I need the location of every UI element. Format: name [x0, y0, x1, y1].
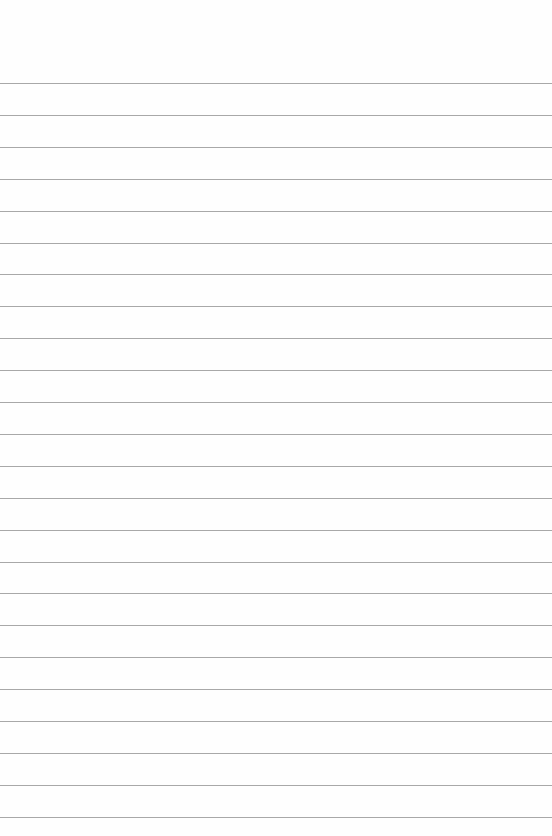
ruled-line [0, 211, 552, 212]
ruled-line [0, 179, 552, 180]
ruled-line [0, 657, 552, 658]
ruled-line [0, 402, 552, 403]
ruled-line [0, 625, 552, 626]
ruled-line [0, 434, 552, 435]
ruled-line [0, 370, 552, 371]
ruled-line [0, 530, 552, 531]
ruled-line [0, 115, 552, 116]
ruled-line [0, 274, 552, 275]
ruled-line [0, 785, 552, 786]
ruled-line [0, 562, 552, 563]
ruled-line [0, 498, 552, 499]
lined-paper-page [0, 0, 552, 836]
ruled-line [0, 147, 552, 148]
ruled-line [0, 83, 552, 84]
ruled-line [0, 753, 552, 754]
ruled-line [0, 243, 552, 244]
ruled-line [0, 306, 552, 307]
ruled-line [0, 817, 552, 818]
ruled-line [0, 593, 552, 594]
ruled-line [0, 721, 552, 722]
ruled-line [0, 338, 552, 339]
ruled-line [0, 689, 552, 690]
ruled-line [0, 466, 552, 467]
